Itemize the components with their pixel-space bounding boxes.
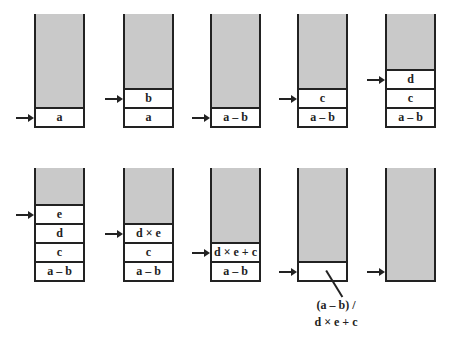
result-label-line2: d × e + c [300,314,372,331]
top-of-stack-arrow-icon [192,117,208,119]
top-of-stack-arrow-icon [105,233,121,235]
stack-cell: a [36,107,83,126]
top-of-stack-arrow-icon [367,271,383,273]
stack-cell: d × e + c [212,242,259,261]
top-of-stack-arrow-icon [105,98,121,100]
stack-cell: a – b [387,107,434,126]
stack-cell: a – b [125,261,172,280]
stack-1: a [34,14,85,128]
stack-6: edca – b [34,168,85,282]
stack-8: d × e + ca – b [210,168,261,282]
stack-cell: a – b [212,261,259,280]
stack-cell: b [125,88,172,107]
result-label-line1: (a – b) / [300,297,372,314]
top-of-stack-arrow-icon [16,214,32,216]
stack-cell: a [125,107,172,126]
stack-cell: a – b [36,261,83,280]
stack-cell: d [36,223,83,242]
stack-10 [385,168,436,282]
stack-4: ca – b [297,14,348,128]
stack-cell: e [36,204,83,223]
stack-cell: c [387,88,434,107]
stack-cell: d × e [125,223,172,242]
top-of-stack-arrow-icon [367,79,383,81]
stack-cell: a – b [299,107,346,126]
stack-cell: c [36,242,83,261]
top-of-stack-arrow-icon [16,117,32,119]
stack-cell [299,261,346,280]
stack-9 [297,168,348,282]
stack-7: d × eca – b [123,168,174,282]
stack-cell: a – b [212,107,259,126]
top-of-stack-arrow-icon [279,271,295,273]
stack-5: dca – b [385,14,436,128]
top-of-stack-arrow-icon [192,252,208,254]
top-of-stack-arrow-icon [279,98,295,100]
stack-cell: c [125,242,172,261]
stack-cell: c [299,88,346,107]
result-label: (a – b) /d × e + c [300,297,372,331]
stack-3: a – b [210,14,261,128]
stack-cell: d [387,69,434,88]
stack-2: ba [123,14,174,128]
